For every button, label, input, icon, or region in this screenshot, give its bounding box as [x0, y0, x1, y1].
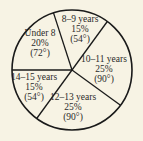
slice-percent: 25% — [50, 102, 96, 112]
slice-label-10-11-years: 10–11 years 25% (90°) — [81, 54, 127, 84]
slice-label-8-9-years: 8–9 years 15% (54°) — [62, 14, 99, 44]
slice-degrees: (90°) — [50, 112, 96, 122]
slice-name: 10–11 years — [81, 54, 127, 64]
slice-name: 8–9 years — [62, 14, 99, 24]
slice-name: 14–15 years — [11, 72, 57, 82]
slice-percent: 15% — [11, 82, 57, 92]
slice-percent: 20% — [25, 38, 56, 48]
slice-degrees: (54°) — [11, 92, 57, 102]
slice-label-under-8: Under 8 20% (72°) — [25, 28, 56, 58]
slice-degrees: (72°) — [25, 48, 56, 58]
slice-percent: 25% — [81, 64, 127, 74]
slice-name: Under 8 — [25, 28, 56, 38]
slice-label-14-15-years: 14–15 years 15% (54°) — [11, 72, 57, 102]
slice-degrees: (54°) — [62, 34, 99, 44]
slice-percent: 15% — [62, 24, 99, 34]
slice-degrees: (90°) — [81, 74, 127, 84]
